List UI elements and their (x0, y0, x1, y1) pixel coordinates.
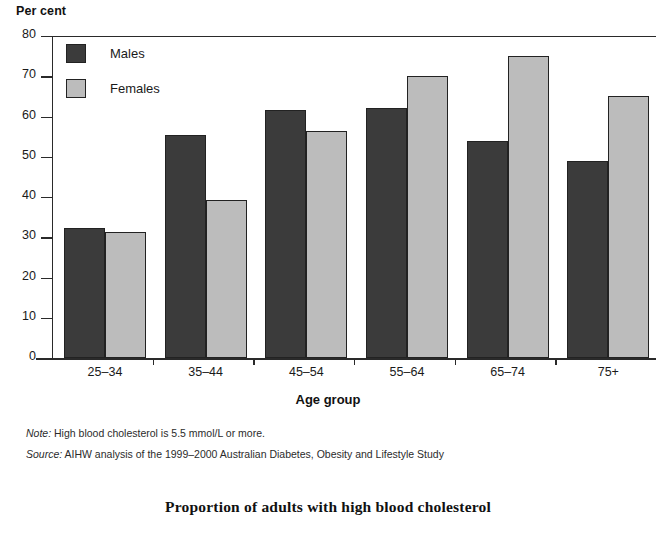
y-axis-tick-label: 50 (22, 148, 36, 162)
legend-item-females: Females (66, 79, 160, 98)
y-axis-tick-mark (41, 117, 52, 118)
y-axis-tick-mark (41, 197, 52, 198)
bar-females (105, 232, 146, 358)
y-axis-tick-mark (41, 278, 52, 279)
bar-females (306, 131, 347, 358)
y-axis-tick-mark (41, 157, 52, 158)
y-axis-tick-mark (41, 36, 52, 37)
bar-females (206, 200, 247, 358)
bar-females (508, 56, 549, 358)
legend-item-males: Males (66, 44, 160, 63)
bar-males (567, 161, 608, 358)
y-axis-tick-label: 0 (29, 349, 36, 363)
legend-label-females: Females (110, 81, 160, 96)
x-axis-line (36, 358, 656, 360)
bar-males (366, 108, 407, 358)
y-axis-tick-mark (41, 76, 52, 77)
legend: Males Females (66, 44, 160, 114)
bar-females (407, 76, 448, 358)
note-text: High blood cholesterol is 5.5 mmol/L or … (51, 427, 265, 439)
x-axis-tick-label: 55–64 (367, 365, 447, 379)
y-axis-tick-label: 30 (22, 228, 36, 242)
bar-males (467, 141, 508, 358)
bar-females (608, 96, 649, 358)
x-axis-title: Age group (0, 392, 656, 407)
note-line: Note: High blood cholesterol is 5.5 mmol… (26, 427, 646, 440)
y-axis-tick-label: 40 (22, 188, 36, 202)
y-axis-tick-mark (41, 237, 52, 238)
x-axis-tick-label: 65–74 (468, 365, 548, 379)
legend-label-males: Males (110, 46, 145, 61)
y-axis-tick-mark (41, 318, 52, 319)
x-axis-tick-mark (153, 359, 154, 365)
note-prefix: Note: (26, 427, 51, 439)
bar-males (64, 228, 105, 358)
x-axis-tick-mark (455, 359, 456, 365)
y-axis-tick-label: 20 (22, 269, 36, 283)
legend-swatch-males-icon (66, 44, 86, 63)
source-text: AIHW analysis of the 1999–2000 Australia… (62, 448, 444, 460)
bar-males (165, 135, 206, 358)
x-axis-tick-mark (555, 359, 556, 365)
footnotes: Note: High blood cholesterol is 5.5 mmol… (26, 427, 646, 469)
figure-caption: Proportion of adults with high blood cho… (0, 498, 656, 516)
y-axis-tick-label: 70 (22, 67, 36, 81)
legend-swatch-females-icon (66, 79, 86, 98)
x-axis-tick-label: 75+ (568, 365, 648, 379)
y-axis-tick-label: 10 (22, 309, 36, 323)
x-axis-tick-label: 35–44 (166, 365, 246, 379)
x-axis-tick-mark (253, 359, 254, 365)
y-axis-tick-mark (41, 358, 52, 359)
y-axis-title: Per cent (16, 4, 66, 18)
x-axis-tick-label: 45–54 (266, 365, 346, 379)
y-axis-tick-label: 80 (22, 27, 36, 41)
bar-males (265, 110, 306, 358)
x-axis-tick-label: 25–34 (65, 365, 145, 379)
source-prefix: Source: (26, 448, 62, 460)
source-line: Source: AIHW analysis of the 1999–2000 A… (26, 448, 646, 461)
x-axis-tick-mark (354, 359, 355, 365)
y-axis-tick-label: 60 (22, 108, 36, 122)
